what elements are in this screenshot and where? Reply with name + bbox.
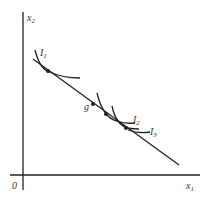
point-g: [91, 102, 95, 106]
point-g-label: g: [84, 101, 89, 112]
tangency-point-3: [124, 126, 128, 130]
y-axis-label: x2: [26, 12, 35, 25]
tangency-point-2: [104, 112, 108, 116]
tangency-point-1: [46, 69, 50, 73]
indifference-diagram: x2 x1 0 I1 I2 I3 g: [0, 0, 206, 197]
curve-label-3: I3: [149, 126, 157, 139]
curve-label-2: I2: [132, 114, 140, 127]
origin-label: 0: [12, 180, 17, 191]
indifference-curve-3: [128, 130, 150, 133]
x-axis-label: x1: [185, 180, 194, 193]
curve-label-1: I1: [39, 47, 47, 60]
